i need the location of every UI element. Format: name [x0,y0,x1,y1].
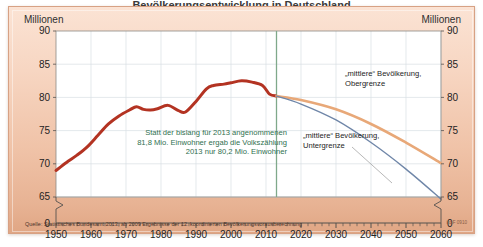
y-tick-label-left: 90 [39,25,51,36]
legend-label-lower-line1: „mittlere“ Bevölkerung, [303,131,379,140]
legend-label-upper-line1: „mittlere“ Bevölkerung, [345,69,421,78]
x-tick-label: 1960 [80,229,103,240]
annotation-line-3: 2013 nur 80,2 Mio. Einwohner [186,147,288,156]
y-tick-label-left: 70 [39,158,51,169]
annotation-line-1: Statt der bislang für 2013 angenommenen [145,128,287,137]
y-axis-break-symbol [56,197,63,223]
x-tick-label: 1950 [45,229,68,240]
plot-area: 6565707075758080858590900019501960197019… [0,0,483,247]
y-tick-label-right: 80 [447,92,459,103]
annotation-line-2: 81,8 Mio. Einwohner ergab die Volkszählu… [137,138,287,147]
x-tick-label: 2000 [220,229,243,240]
x-tick-label: 1980 [150,229,173,240]
y-tick-label-right: 75 [447,125,459,136]
y-tick-label-right: 90 [447,25,459,36]
y-tick-label-left: 75 [39,125,51,136]
y-tick-label-left: 80 [39,92,51,103]
x-tick-label: 2060 [430,229,453,240]
source-note: Quelle: Statistisches Bundesamt 2013, ab… [25,221,302,227]
y-axis-break-symbol [434,197,441,223]
x-tick-label: 1970 [115,229,138,240]
y-tick-label-left: 65 [39,191,51,202]
y-tick-label-right: 70 [447,158,459,169]
x-tick-label: 2010 [255,229,278,240]
x-tick-label: 1990 [185,229,208,240]
chart-screenshot: Bevölkerungsentwicklung in Deutschland M… [0,0,483,247]
x-tick-label: 2030 [325,229,348,240]
legend-label-upper-line2: Obergrenze [345,79,385,88]
plot-background [56,31,441,197]
y-tick-label-right: 85 [447,59,459,70]
x-tick-label: 2050 [395,229,418,240]
y-tick-label-left: 85 [39,59,51,70]
publisher-code: i.d.F 0910 [447,220,467,225]
x-tick-label: 2020 [290,229,313,240]
x-tick-label: 2040 [360,229,383,240]
legend-label-lower-line2: Untergrenze [303,141,345,150]
y-tick-label-right: 65 [447,191,459,202]
chart-svg: 6565707075758080858590900019501960197019… [0,0,483,247]
